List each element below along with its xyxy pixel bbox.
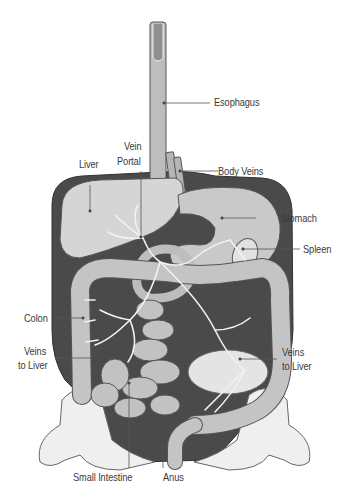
- label-anus: Anus: [163, 471, 184, 484]
- esophagus: [150, 22, 166, 192]
- label-veins-to-liver-left-line1: Veins: [24, 345, 46, 358]
- label-small-intestine: Small Intestine: [73, 471, 132, 484]
- label-body-veins: Body Veins: [218, 165, 263, 178]
- label-esophagus: Esophagus: [214, 96, 259, 109]
- label-veins-to-liver-right-line1: Veins: [282, 346, 304, 359]
- label-veins-to-liver-left-line2: to Liver: [18, 359, 48, 372]
- label-veins-to-liver-right-line2: to Liver: [282, 360, 312, 373]
- label-spleen: Spleen: [303, 243, 331, 256]
- label-vein-portal-line1: Vein: [124, 140, 142, 153]
- label-colon: Colon: [24, 312, 48, 325]
- label-vein-portal-line2: Portal: [117, 155, 141, 168]
- digestive-system-diagram: [0, 0, 349, 502]
- label-liver: Liver: [79, 158, 99, 171]
- label-stomach: Stomach: [281, 212, 317, 225]
